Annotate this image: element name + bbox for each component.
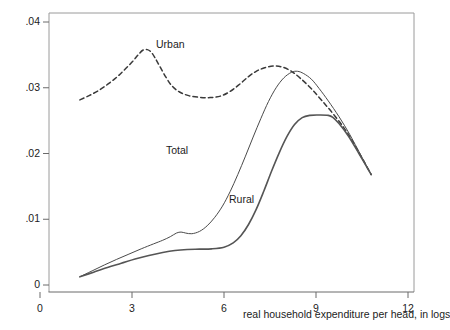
series-label-rural: Rural: [229, 193, 254, 205]
y-tick-label: 0: [8, 278, 40, 290]
x-tick-label: 6: [210, 302, 238, 314]
x-tick-label: 3: [118, 302, 146, 314]
y-tick-label: .03: [8, 81, 40, 93]
series-line-rural: [80, 115, 371, 277]
y-tick-label: .04: [8, 15, 40, 27]
data-series-group: [80, 49, 371, 276]
axis-ticks: [40, 22, 408, 298]
x-tick-label: 0: [26, 302, 54, 314]
y-tick-label: .02: [8, 147, 40, 159]
x-axis-title: real household expenditure per head, in …: [243, 308, 450, 320]
series-label-urban: Urban: [156, 38, 185, 50]
series-label-total: Total: [166, 144, 188, 156]
series-line-urban: [80, 49, 371, 174]
y-tick-label: .01: [8, 212, 40, 224]
